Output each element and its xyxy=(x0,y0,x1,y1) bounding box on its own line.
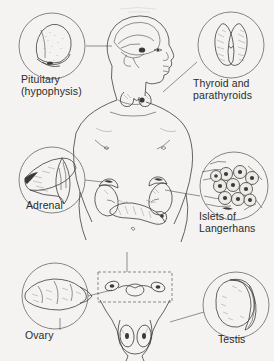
diagram-canvas xyxy=(0,0,274,361)
leader-islets xyxy=(165,190,200,196)
label-thyroid-line1: Thyroid and xyxy=(193,77,250,89)
torso xyxy=(73,100,192,242)
inset-testis xyxy=(203,272,269,338)
label-islets-line1: Islets of xyxy=(199,210,236,222)
human-body-figure xyxy=(73,16,192,361)
label-testis-line1: Testis xyxy=(218,333,245,345)
label-islets: Islets of Langerhans xyxy=(199,211,255,234)
pancreas xyxy=(110,203,167,224)
endocrine-system-diagram: Pituitary (hypophysis) Thyroid and parat… xyxy=(0,0,274,361)
top-edge-artifact xyxy=(120,8,156,13)
islet-marker xyxy=(160,214,164,218)
label-islets-line2: Langerhans xyxy=(199,222,255,234)
label-adrenal: Adrenal xyxy=(26,200,63,212)
parathyroid-marker xyxy=(139,97,144,102)
inset-ovary xyxy=(22,263,92,329)
head-profile xyxy=(107,16,174,100)
label-adrenal-line1: Adrenal xyxy=(26,199,63,211)
label-ovary-line1: Ovary xyxy=(25,329,54,341)
label-thyroid-line2: parathyroids xyxy=(193,89,252,101)
inset-pituitary xyxy=(19,13,85,79)
thyroid-in-neck xyxy=(118,92,151,107)
label-pituitary: Pituitary (hypophysis) xyxy=(21,74,82,97)
leader-testis xyxy=(170,312,204,322)
kidneys-with-adrenals xyxy=(95,177,172,216)
label-testis: Testis xyxy=(218,334,245,346)
label-thyroid: Thyroid and parathyroids xyxy=(193,78,252,101)
pelvic-dashed-box xyxy=(98,272,172,302)
label-pituitary-line1: Pituitary xyxy=(21,73,60,85)
pituitary-marker xyxy=(139,47,145,52)
leader-adrenal xyxy=(85,180,103,182)
inset-thyroid xyxy=(198,12,264,78)
label-ovary: Ovary xyxy=(25,330,54,342)
pelvic-reproductive-region xyxy=(98,272,172,361)
label-pituitary-line2: (hypophysis) xyxy=(21,85,82,97)
